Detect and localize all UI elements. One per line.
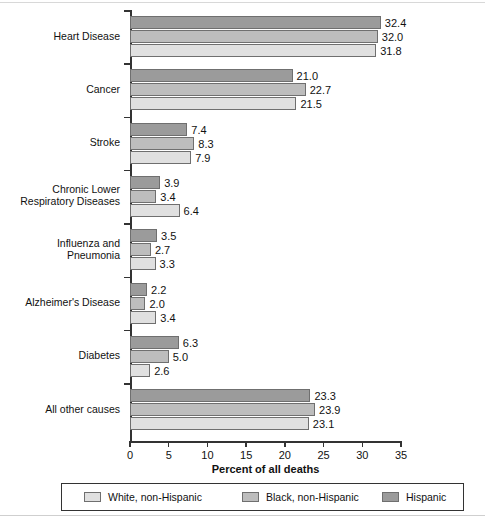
bar [130, 83, 306, 96]
y-axis-group-tick [124, 170, 131, 172]
x-axis-tick-label: 0 [110, 449, 150, 461]
bar [130, 44, 376, 57]
category-label: Heart Disease [53, 30, 120, 42]
bar-value-label: 31.8 [380, 45, 401, 57]
bar-value-label: 32.0 [382, 31, 403, 43]
bar [130, 229, 157, 242]
x-axis-tick [207, 441, 209, 447]
y-axis-group-tick [124, 10, 131, 12]
bar-value-label: 8.3 [198, 138, 213, 150]
x-axis-tick-label: 35 [381, 449, 421, 461]
y-axis-group-tick [124, 117, 131, 119]
bar [130, 123, 187, 136]
bar-value-label: 2.7 [155, 244, 170, 256]
legend-item[interactable]: Black, non-Hispanic [242, 490, 359, 504]
category-label: Influenza and Pneumonia [57, 237, 120, 261]
category-label: Chronic Lower Respiratory Diseases [20, 183, 120, 207]
x-axis-tick [129, 441, 131, 447]
x-axis-tick [400, 441, 402, 447]
bar [130, 403, 315, 416]
bar [130, 364, 150, 377]
bar [130, 311, 156, 324]
bar [130, 283, 147, 296]
legend-label: White, non-Hispanic [108, 491, 202, 503]
x-axis-tick [362, 441, 364, 447]
legend: White, non-HispanicBlack, non-HispanicHi… [61, 483, 464, 511]
x-axis-tick-label: 15 [226, 449, 266, 461]
legend-swatch-icon [382, 492, 399, 502]
bar [130, 16, 381, 29]
x-axis-tick-label: 20 [265, 449, 305, 461]
x-axis-tick-label: 10 [187, 449, 227, 461]
bar-value-label: 23.3 [314, 390, 335, 402]
x-axis-tick [168, 441, 170, 447]
bar [130, 336, 179, 349]
bar [130, 176, 160, 189]
bar-value-label: 2.0 [149, 298, 164, 310]
bar [130, 204, 180, 217]
bar-value-label: 3.4 [160, 191, 175, 203]
bar [130, 389, 310, 402]
bar-value-label: 3.4 [160, 312, 175, 324]
bar [130, 190, 156, 203]
legend-label: Hispanic [406, 491, 446, 503]
x-axis-tick-label: 25 [304, 449, 344, 461]
legend-label: Black, non-Hispanic [266, 491, 359, 503]
bar [130, 30, 378, 43]
bar-value-label: 7.4 [191, 124, 206, 136]
bar [130, 97, 296, 110]
bar [130, 151, 191, 164]
bar-value-label: 6.4 [184, 205, 199, 217]
bar [130, 69, 293, 82]
legend-item[interactable]: Hispanic [382, 490, 446, 504]
bar [130, 350, 169, 363]
bar-value-label: 6.3 [183, 337, 198, 349]
bar-value-label: 22.7 [310, 84, 331, 96]
category-label: Diabetes [79, 349, 120, 361]
bar-value-label: 23.1 [313, 418, 334, 430]
category-label: Stroke [90, 136, 120, 148]
bar-chart: 05101520253035 Percent of all deaths Hea… [0, 0, 485, 524]
bar-value-label: 32.4 [385, 17, 406, 29]
bar-value-label: 7.9 [195, 152, 210, 164]
bar-value-label: 3.3 [160, 258, 175, 270]
bar-value-label: 21.5 [300, 98, 321, 110]
bar-value-label: 2.6 [154, 365, 169, 377]
bar [130, 257, 156, 270]
y-axis-group-tick [124, 223, 131, 225]
y-axis-group-tick [124, 277, 131, 279]
legend-swatch-icon [84, 492, 101, 502]
x-axis-tick-label: 30 [342, 449, 382, 461]
x-axis-tick [323, 441, 325, 447]
y-axis-group-tick [124, 383, 131, 385]
x-axis-line [130, 441, 401, 443]
x-axis-tick [284, 441, 286, 447]
category-label: Cancer [86, 83, 120, 95]
legend-swatch-icon [242, 492, 259, 502]
bar [130, 243, 151, 256]
category-label: Alzheimer's Disease [25, 296, 120, 308]
bar-value-label: 3.9 [164, 177, 179, 189]
bar-value-label: 23.9 [319, 404, 340, 416]
category-label: All other causes [45, 403, 120, 415]
y-axis-group-tick [124, 63, 131, 65]
bar [130, 137, 194, 150]
bar-value-label: 3.5 [161, 230, 176, 242]
x-axis-title: Percent of all deaths [130, 463, 401, 475]
bar [130, 297, 145, 310]
bar [130, 417, 309, 430]
y-axis-group-tick [124, 330, 131, 332]
bar-value-label: 21.0 [297, 70, 318, 82]
bar-value-label: 5.0 [173, 351, 188, 363]
legend-item[interactable]: White, non-Hispanic [84, 490, 202, 504]
x-axis-tick-label: 5 [149, 449, 189, 461]
x-axis-tick [245, 441, 247, 447]
bar-value-label: 2.2 [151, 284, 166, 296]
